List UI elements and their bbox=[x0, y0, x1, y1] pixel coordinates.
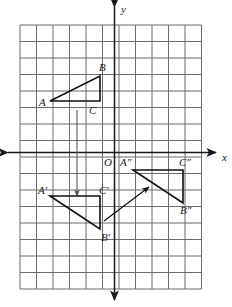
triangle-a-prime-b-prime-c-prime bbox=[50, 196, 100, 229]
y-axis-label: y bbox=[120, 3, 126, 15]
vertex-label-a: A bbox=[38, 96, 46, 108]
vertex-label-c-prime: C′ bbox=[99, 184, 109, 196]
vertex-label-a-double-prime: A″ bbox=[119, 156, 132, 168]
vertex-label-b-prime: B′ bbox=[101, 231, 111, 243]
origin-label: O bbox=[104, 156, 112, 168]
vertex-label-b: B bbox=[99, 61, 106, 73]
vertex-label-a-prime: A′ bbox=[37, 184, 48, 196]
translation-arrows bbox=[77, 110, 149, 221]
geometry-figure-svg: ABCA′C′B′A″C″B″ x y O bbox=[0, 0, 232, 307]
vertex-label-c-double-prime: C″ bbox=[179, 156, 191, 168]
coordinate-plane-figure: ABCA′C′B′A″C″B″ x y O bbox=[0, 0, 232, 307]
translation-arrow-diagonal bbox=[104, 187, 149, 221]
vertex-label-c: C bbox=[89, 104, 97, 116]
triangle-a-double-prime-b-double-prime-c-double-prime bbox=[133, 170, 183, 203]
vertex-label-b-double-prime: B″ bbox=[180, 204, 192, 216]
x-axis-label: x bbox=[221, 151, 227, 163]
triangle-abc bbox=[50, 76, 100, 101]
